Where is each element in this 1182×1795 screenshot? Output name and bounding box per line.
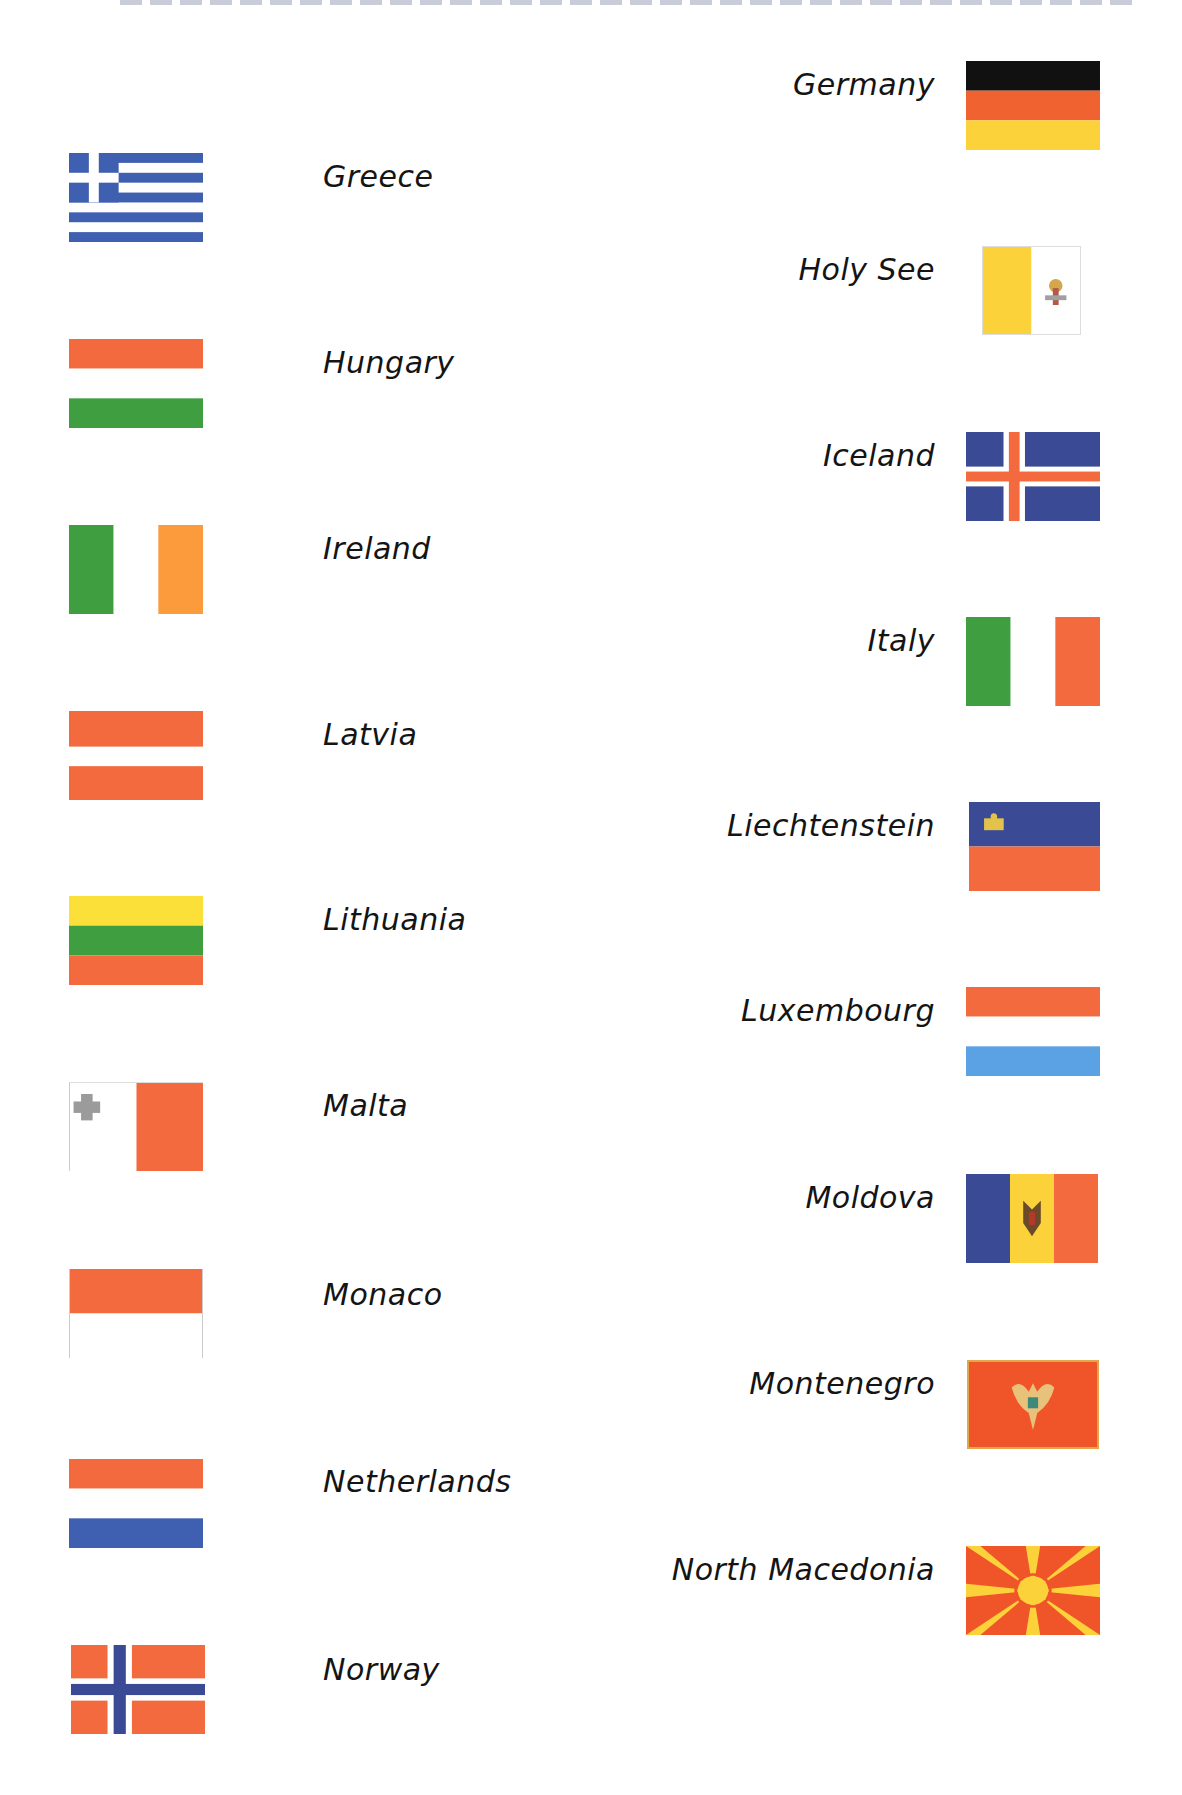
latvia-flag-icon (69, 711, 203, 800)
cropped-page-heading (120, 0, 1140, 5)
country-label-luxembourg: Luxembourg (741, 993, 935, 1029)
country-label-latvia: Latvia (323, 717, 417, 753)
montenegro-flag-icon (967, 1360, 1099, 1449)
country-label-montenegro: Montenegro (749, 1366, 935, 1402)
luxembourg-flag-icon (966, 987, 1100, 1076)
malta-flag-icon (69, 1082, 203, 1171)
iceland-flag-icon (966, 432, 1100, 521)
country-label-malta: Malta (323, 1088, 408, 1124)
country-label-ireland: Ireland (323, 531, 431, 567)
country-label-moldova: Moldova (805, 1180, 935, 1216)
lithuania-flag-icon (69, 896, 203, 985)
north-macedonia-flag-icon (966, 1546, 1100, 1635)
germany-flag-icon (966, 61, 1100, 150)
country-label-greece: Greece (323, 159, 433, 195)
country-label-monaco: Monaco (323, 1277, 442, 1313)
country-label-lithuania: Lithuania (323, 902, 466, 938)
greece-flag-icon (69, 153, 203, 242)
hungary-flag-icon (69, 339, 203, 428)
norway-flag-icon (71, 1645, 205, 1734)
country-label-liechtenstein: Liechtenstein (727, 808, 935, 844)
monaco-flag-icon (69, 1269, 203, 1358)
country-label-iceland: Iceland (823, 438, 935, 474)
holy-see-flag-icon (982, 246, 1081, 335)
country-label-netherlands: Netherlands (323, 1464, 511, 1500)
ireland-flag-icon (69, 525, 203, 614)
liechtenstein-flag-icon (969, 802, 1100, 891)
country-label-germany: Germany (793, 67, 935, 103)
country-label-norway: Norway (323, 1652, 440, 1688)
netherlands-flag-icon (69, 1459, 203, 1548)
italy-flag-icon (966, 617, 1100, 706)
country-label-italy: Italy (867, 623, 935, 659)
country-label-north-macedonia: North Macedonia (672, 1552, 935, 1588)
country-label-holy-see: Holy See (799, 252, 936, 288)
country-label-hungary: Hungary (323, 345, 455, 381)
moldova-flag-icon (966, 1174, 1098, 1263)
